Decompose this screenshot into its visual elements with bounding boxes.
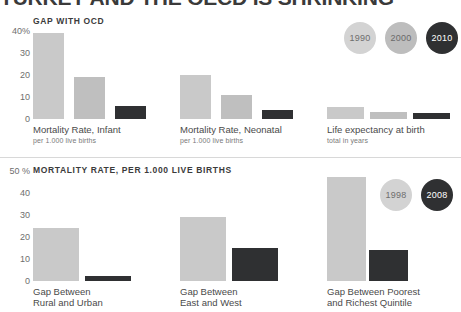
- bars: [327, 162, 457, 281]
- category-label: Mortality Rate, Infant: [33, 124, 121, 135]
- bar-2010[interactable]: [262, 110, 293, 119]
- category-sublabel: per 1.000 live births: [180, 136, 243, 145]
- category-label-line1: Gap Between: [180, 286, 238, 297]
- category-label-line2: and Richest Quintile: [327, 297, 412, 308]
- section-gap-with-ocd: GAP WITH OCD 40% 30 20 10 0 1990 2000 20…: [0, 14, 461, 160]
- category-sublabel: per 1.000 live births: [33, 136, 96, 145]
- category-label-line2: Rural and Urban: [33, 297, 103, 308]
- bar-1990[interactable]: [33, 33, 64, 119]
- y-tick: 0: [25, 276, 30, 286]
- bar-1990[interactable]: [180, 75, 211, 119]
- chart-group-mortality-infant: Mortality Rate, Infant per 1.000 live bi…: [33, 14, 158, 160]
- category-label-line1: Gap Between: [33, 286, 91, 297]
- bar-2008[interactable]: [232, 248, 278, 281]
- y-tick: 20: [20, 70, 30, 80]
- bars: [33, 14, 158, 119]
- y-tick: 40%: [12, 26, 30, 36]
- y-tick: 0: [25, 114, 30, 124]
- chart-group-mortality-neonatal: Mortality Rate, Neonatal per 1.000 live …: [180, 14, 315, 160]
- y-tick: 50 %: [9, 166, 30, 176]
- bar-2000[interactable]: [370, 112, 407, 119]
- category-label: Life expectancy at birth: [327, 124, 425, 135]
- bar-2008[interactable]: [85, 276, 131, 281]
- bar-2008[interactable]: [369, 250, 408, 281]
- chart-group-life-expectancy: Life expectancy at birth total in years: [327, 14, 461, 160]
- y-tick: 40: [20, 188, 30, 198]
- bars: [180, 14, 305, 119]
- bar-2010[interactable]: [115, 106, 146, 119]
- bar-1998[interactable]: [327, 177, 366, 281]
- bars: [180, 162, 310, 281]
- page-title: TURKEY AND THE OECD IS SHRINKING: [0, 0, 461, 10]
- bars: [327, 14, 452, 119]
- infographic-root: TURKEY AND THE OECD IS SHRINKING GAP WIT…: [0, 0, 461, 312]
- y-axis-bottom: 50 % 40 30 20 10 0: [0, 162, 30, 286]
- category-label-line1: Gap Between Poorest: [327, 286, 420, 297]
- y-tick: 10: [20, 92, 30, 102]
- y-tick: 20: [20, 232, 30, 242]
- bar-1990[interactable]: [327, 107, 364, 119]
- y-tick: 30: [20, 210, 30, 220]
- bars: [33, 162, 163, 281]
- y-tick: 30: [20, 48, 30, 58]
- bar-1998[interactable]: [33, 228, 79, 281]
- chart-group-rural-urban: Gap Between Rural and Urban: [33, 162, 163, 312]
- chart-group-poorest-richest: Gap Between Poorest and Richest Quintile: [327, 162, 461, 312]
- category-label: Mortality Rate, Neonatal: [180, 124, 282, 135]
- bar-2010[interactable]: [413, 113, 450, 119]
- category-label-line2: East and West: [180, 297, 242, 308]
- y-tick: 10: [20, 254, 30, 264]
- y-axis-top: 40% 30 20 10 0: [0, 14, 30, 134]
- bar-1998[interactable]: [180, 217, 226, 281]
- bar-2000[interactable]: [221, 95, 252, 119]
- category-sublabel: total in years: [327, 136, 368, 145]
- section-mortality-rate: MORTALITY RATE, PER 1.000 LIVE BIRTHS 50…: [0, 162, 461, 312]
- chart-group-east-west: Gap Between East and West: [180, 162, 310, 312]
- section-divider: [0, 157, 461, 158]
- bar-2000[interactable]: [74, 77, 105, 119]
